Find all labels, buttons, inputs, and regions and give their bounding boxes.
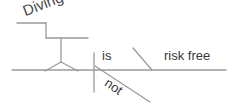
complement-label: risk free (164, 49, 210, 62)
complement-slant-line (133, 48, 152, 70)
sentence-diagram-canvas: Diving is not risk free (0, 0, 232, 109)
verb-label: is (102, 49, 111, 62)
